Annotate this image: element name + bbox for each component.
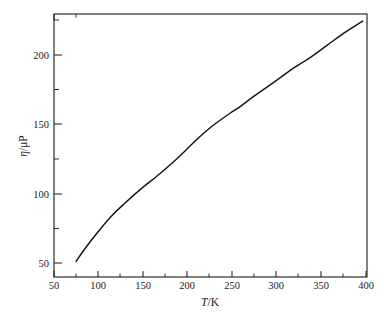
x-tick-label: 200 [179,280,195,291]
y-axis-title: η/μP [17,135,30,156]
viscosity-temperature-line-chart: 50 100 150 200 250 300 350 400 50 100 15… [0,0,384,315]
x-axis-title-group: T/K [201,296,220,308]
x-tick-label: 350 [313,280,329,291]
y-tick-label: 100 [33,189,49,200]
data-series-group [76,21,363,261]
y-tick-label: 150 [33,119,49,130]
x-tick-label: 300 [268,280,284,291]
x-tick-label: 50 [49,280,60,291]
figure-container: 50 100 150 200 250 300 350 400 50 100 15… [0,0,384,315]
top-axis-ticks [54,14,76,20]
x-axis-major-ticks [54,271,366,277]
x-tick-label: 400 [358,280,374,291]
y-axis-title-group: η/μP [17,135,30,156]
x-tick-label: 150 [135,280,151,291]
y-tick-label: 200 [33,50,49,61]
x-axis-title: T/K [201,296,220,308]
viscosity-curve [76,21,363,261]
y-tick-label: 50 [39,258,50,269]
x-tick-label: 250 [224,280,240,291]
plot-frame-rect [54,14,367,277]
y-axis-tick-labels: 50 100 150 200 [33,50,49,269]
plot-frame [54,14,367,277]
x-tick-label: 100 [90,280,106,291]
x-axis-tick-labels: 50 100 150 200 250 300 350 400 [49,280,374,291]
